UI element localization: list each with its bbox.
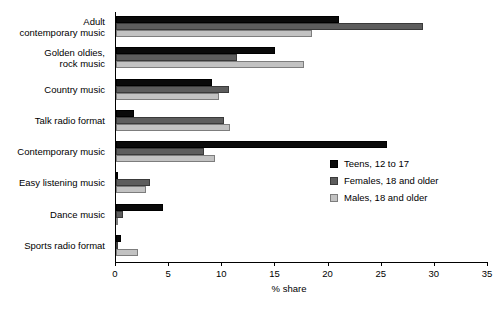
bar-7-series-2 <box>116 211 123 218</box>
x-axis-line <box>115 262 488 263</box>
category-label-1: Adultcontemporary music <box>0 16 105 38</box>
bar-3-series-1 <box>116 79 212 86</box>
legend-label: Teens, 12 to 17 <box>344 158 409 169</box>
chart-figure: Adultcontemporary musicGolden oldies,roc… <box>0 0 503 311</box>
bar-6-series-3 <box>116 186 146 193</box>
bar-5-series-1 <box>116 141 387 148</box>
category-label-line: Easy listening music <box>0 177 105 188</box>
x-tick-10 <box>221 262 222 266</box>
category-label-line: Dance music <box>0 209 105 220</box>
category-label-line: Country music <box>0 84 105 95</box>
chart-legend: Teens, 12 to 17Females, 18 and olderMale… <box>330 156 439 207</box>
legend-swatch-icon <box>330 160 338 168</box>
bar-4-series-1 <box>116 110 134 117</box>
legend-item-1: Teens, 12 to 17 <box>330 156 439 171</box>
x-tick-label-15: 15 <box>259 268 289 279</box>
category-label-line: Golden oldies, <box>0 47 105 58</box>
x-tick-35 <box>487 262 488 266</box>
bar-2-series-3 <box>116 61 304 68</box>
bar-2-series-2 <box>116 54 237 61</box>
legend-label: Females, 18 and older <box>344 175 439 186</box>
x-tick-label-10: 10 <box>206 268 236 279</box>
bar-7-series-1 <box>116 204 163 211</box>
category-label-2: Golden oldies,rock music <box>0 47 105 69</box>
bar-1-series-3 <box>116 30 312 37</box>
bar-4-series-3 <box>116 124 230 131</box>
bar-group <box>116 43 488 74</box>
x-tick-label-30: 30 <box>419 268 449 279</box>
bar-1-series-2 <box>116 23 423 30</box>
category-label-line: Contemporary music <box>0 146 105 157</box>
x-tick-15 <box>274 262 275 266</box>
category-label-line: Talk radio format <box>0 115 105 126</box>
x-tick-label-0: 0 <box>100 268 130 279</box>
bar-8-series-2 <box>116 242 118 249</box>
category-label-4: Talk radio format <box>0 115 105 126</box>
bar-2-series-1 <box>116 47 275 54</box>
bar-8-series-1 <box>116 235 121 242</box>
category-label-3: Country music <box>0 84 105 95</box>
bar-3-series-2 <box>116 86 229 93</box>
bar-5-series-2 <box>116 148 204 155</box>
plot-area <box>115 12 488 262</box>
x-tick-25 <box>381 262 382 266</box>
category-label-7: Dance music <box>0 209 105 220</box>
legend-swatch-icon <box>330 177 338 185</box>
legend-swatch-icon <box>330 194 338 202</box>
legend-item-3: Males, 18 and older <box>330 190 439 205</box>
x-tick-label-5: 5 <box>153 268 183 279</box>
bar-group <box>116 75 488 106</box>
x-tick-label-20: 20 <box>313 268 343 279</box>
legend-label: Males, 18 and older <box>344 192 427 203</box>
legend-item-2: Females, 18 and older <box>330 173 439 188</box>
category-label-line: Adult <box>0 16 105 27</box>
x-tick-30 <box>434 262 435 266</box>
x-tick-label-25: 25 <box>366 268 396 279</box>
bar-8-series-3 <box>116 249 138 256</box>
x-tick-label-35: 35 <box>472 268 502 279</box>
category-axis-labels: Adultcontemporary musicGolden oldies,roc… <box>0 12 110 262</box>
bar-group <box>116 231 488 262</box>
x-axis-title-text: % share <box>272 283 307 294</box>
bar-5-series-3 <box>116 155 215 162</box>
bar-6-series-2 <box>116 179 150 186</box>
bar-7-series-3 <box>116 218 118 225</box>
category-label-line: Sports radio format <box>0 240 105 251</box>
x-axis-title: % share <box>0 283 503 294</box>
bar-group <box>116 12 488 43</box>
category-label-5: Contemporary music <box>0 146 105 157</box>
x-tick-20 <box>328 262 329 266</box>
bar-group <box>116 106 488 137</box>
category-label-6: Easy listening music <box>0 177 105 188</box>
category-label-line: contemporary music <box>0 27 105 38</box>
category-label-8: Sports radio format <box>0 240 105 251</box>
x-tick-5 <box>168 262 169 266</box>
bar-3-series-3 <box>116 93 219 100</box>
bar-4-series-2 <box>116 117 224 124</box>
category-label-line: rock music <box>0 58 105 69</box>
x-tick-0 <box>115 262 116 266</box>
bar-6-series-1 <box>116 172 118 179</box>
bar-1-series-1 <box>116 16 339 23</box>
